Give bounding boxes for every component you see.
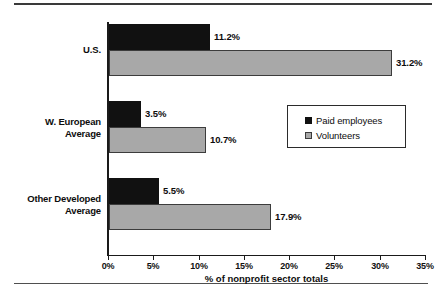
legend-item-volunteers: Volunteers [305,128,405,143]
x-axis-title: % of nonprofit sector totals [108,273,425,284]
category-label-line: Other Developed [0,193,101,205]
x-axis-tick [334,256,335,260]
category-label-line: Average [0,128,101,140]
x-axis-tick-label: 0% [86,261,130,272]
bar-volunteers [109,127,206,153]
x-axis-tick [108,256,109,260]
bar-paid-employees [109,101,141,127]
bar-paid-employees [109,24,210,50]
bar-value-label: 31.2% [396,58,422,68]
legend-swatch-volunteers-icon [305,132,312,139]
bar-paid-employees [109,178,159,204]
x-axis-tick-label: 10% [177,261,221,272]
x-axis-tick [380,256,381,260]
chart-legend: Paid employees Volunteers [287,105,406,148]
category-label-line: U.S. [0,44,101,56]
legend-label-volunteers: Volunteers [316,130,360,141]
x-axis-tick-label: 20% [267,261,311,272]
bar-value-label: 10.7% [210,135,236,145]
x-axis-tick [244,256,245,260]
x-axis-tick-label: 25% [312,261,356,272]
x-axis-tick-label: 5% [131,261,175,272]
bar-volunteers [109,204,271,230]
x-axis-line [107,255,426,256]
x-axis-tick [289,256,290,260]
legend-swatch-paid-employees-icon [305,117,312,124]
bar-value-label: 3.5% [145,109,166,119]
x-axis-tick [199,256,200,260]
bar-value-label: 11.2% [214,32,240,42]
bar-value-label: 5.5% [163,186,184,196]
bar-value-label: 17.9% [275,212,301,222]
chart-figure: 0%5%10%15%20%25%30%35% 11.2%31.2%3.5%10.… [0,0,438,299]
x-axis-tick [153,256,154,260]
category-label: Other DevelopedAverage [0,193,101,216]
category-label-line: Average [0,205,101,217]
x-axis-tick-label: 30% [358,261,402,272]
top-divider-rule [14,3,432,5]
bar-volunteers [109,50,392,76]
legend-label-paid-employees: Paid employees [316,115,382,126]
x-axis-tick [425,256,426,260]
category-label-line: W. European [0,116,101,128]
legend-item-paid-employees: Paid employees [305,113,405,128]
category-label: W. EuropeanAverage [0,116,101,139]
x-axis-tick-label: 15% [222,261,266,272]
x-axis-tick-label: 35% [403,261,438,272]
category-label: U.S. [0,44,101,56]
